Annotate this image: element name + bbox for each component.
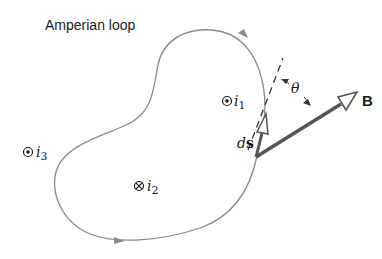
current-i1: i1 [223, 93, 246, 112]
theta-label: θ [291, 80, 300, 96]
current-i2: i2 [135, 178, 159, 197]
loop-label: Amperian loop [45, 17, 135, 33]
amperian-loop-curve [55, 30, 265, 240]
loop-direction-arrow-bottom [114, 237, 125, 244]
svg-text:i2: i2 [147, 178, 158, 197]
current-i3: i3 [24, 144, 48, 163]
loop-direction-arrow-top [238, 29, 248, 38]
theta-arrow-right [303, 99, 311, 106]
b-vector-shaft [256, 104, 341, 157]
amperian-loop-diagram: Amperian loop θ B ds i1 i2 [0, 0, 382, 259]
b-vector-arrowhead [338, 92, 357, 110]
ds-label: ds [237, 135, 254, 151]
ds-vector-arrowhead [257, 114, 268, 134]
b-label: B [362, 92, 373, 109]
svg-text:i3: i3 [36, 144, 47, 163]
svg-text:i1: i1 [234, 93, 245, 112]
